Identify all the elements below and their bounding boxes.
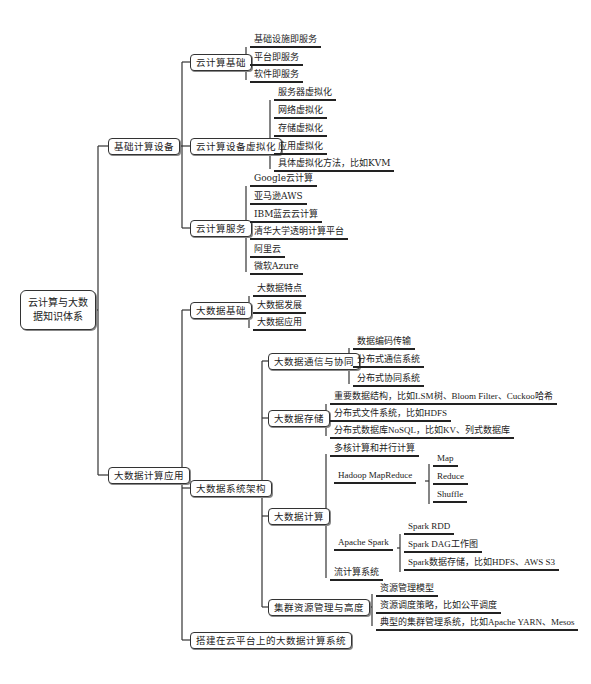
root-label: 云计算与大数据知识体系	[28, 297, 88, 322]
leaf-reduce[interactable]: Reduce	[433, 470, 468, 485]
node-big-data-basics[interactable]: 大数据基础	[190, 302, 252, 319]
node-label: 云计算设备虚拟化	[196, 141, 276, 152]
leaf-map[interactable]: Map	[433, 452, 458, 467]
mind-map: 云计算与大数据知识体系 基础计算设备 大数据计算应用 云计算基础 基础设施即服务…	[0, 0, 591, 684]
leaf-nosql[interactable]: 分布式数据库NoSQL，比如KV、列式数据库	[330, 424, 514, 439]
leaf-spark-storage[interactable]: Spark数据存储，比如HDFS、AWS S3	[404, 556, 559, 571]
node-big-data-computing-apps[interactable]: 大数据计算应用	[108, 467, 190, 484]
node-label: 云计算服务	[196, 223, 246, 234]
node-apache-spark[interactable]: Apache Spark	[334, 536, 393, 551]
node-label: 搭建在云平台上的大数据计算系统	[196, 635, 346, 646]
node-big-data-architecture[interactable]: 大数据系统架构	[190, 480, 272, 497]
leaf-distributed-coordination[interactable]: 分布式协同系统	[353, 372, 424, 387]
node-label: 大数据存储	[274, 413, 324, 424]
leaf-ibm-bluecloud[interactable]: IBM蓝云云计算	[250, 208, 322, 223]
node-cloud-services[interactable]: 云计算服务	[190, 220, 252, 237]
node-label: 大数据基础	[196, 305, 246, 316]
leaf-azure[interactable]: 微软Azure	[250, 260, 303, 275]
leaf-google-cloud[interactable]: Google云计算	[250, 172, 317, 187]
node-label: 集群资源管理与高度	[274, 602, 364, 613]
leaf-app-virtualization[interactable]: 应用虚拟化	[274, 140, 327, 155]
node-label: 云计算基础	[196, 57, 246, 68]
node-basic-computing-devices[interactable]: 基础计算设备	[108, 138, 180, 155]
leaf-paas[interactable]: 平台即服务	[250, 51, 303, 66]
leaf-kvm[interactable]: 具体虚拟化方法，比如KVM	[274, 157, 394, 172]
node-label: 大数据计算	[274, 511, 324, 522]
leaf-storage-virtualization[interactable]: 存储虚拟化	[274, 122, 327, 137]
leaf-big-data-development[interactable]: 大数据发展	[253, 299, 306, 314]
node-label: 基础计算设备	[114, 141, 174, 152]
leaf-big-data-features[interactable]: 大数据特点	[253, 282, 306, 297]
node-cluster-resource-management[interactable]: 集群资源管理与高度	[268, 599, 370, 616]
node-label: 大数据系统架构	[196, 483, 266, 494]
leaf-distributed-communication[interactable]: 分布式通信系统	[353, 353, 424, 368]
node-hadoop-mapreduce[interactable]: Hadoop MapReduce	[334, 469, 416, 484]
node-cloud-basics[interactable]: 云计算基础	[190, 54, 252, 71]
leaf-spark-rdd[interactable]: Spark RDD	[404, 520, 454, 535]
node-big-data-computing[interactable]: 大数据计算	[268, 508, 330, 525]
leaf-iaas[interactable]: 基础设施即服务	[250, 33, 321, 48]
leaf-stream-computing[interactable]: 流计算系统	[330, 566, 383, 581]
leaf-multicore-parallel[interactable]: 多核计算和并行计算	[330, 442, 419, 457]
leaf-network-virtualization[interactable]: 网络虚拟化	[274, 104, 327, 119]
node-cloud-big-data-system[interactable]: 搭建在云平台上的大数据计算系统	[190, 632, 352, 649]
leaf-scheduling-policy[interactable]: 资源调度策略，比如公平调度	[376, 599, 501, 614]
leaf-server-virtualization[interactable]: 服务器虚拟化	[274, 86, 336, 101]
node-communication-coordination[interactable]: 大数据通信与协同	[268, 353, 360, 370]
leaf-saas[interactable]: 软件即服务	[250, 68, 303, 83]
leaf-hdfs[interactable]: 分布式文件系统，比如HDFS	[330, 407, 451, 422]
root-node[interactable]: 云计算与大数据知识体系	[20, 290, 96, 330]
node-cloud-virtualization[interactable]: 云计算设备虚拟化	[190, 138, 282, 155]
leaf-spark-dag[interactable]: Spark DAG工作图	[404, 538, 482, 553]
leaf-aws[interactable]: 亚马逊AWS	[250, 190, 307, 205]
connector-lines	[0, 0, 591, 684]
leaf-resource-model[interactable]: 资源管理模型	[376, 582, 438, 597]
node-big-data-storage[interactable]: 大数据存储	[268, 410, 330, 427]
leaf-data-structures[interactable]: 重要数据结构，比如LSM树、Bloom Filter、Cuckoo哈希	[330, 390, 557, 405]
leaf-cluster-systems[interactable]: 典型的集群管理系统，比如Apache YARN、Mesos	[376, 616, 578, 631]
leaf-tsinghua-transparent[interactable]: 清华大学透明计算平台	[250, 225, 348, 240]
node-label: 大数据通信与协同	[274, 356, 354, 367]
node-label: 大数据计算应用	[114, 470, 184, 481]
leaf-shuffle[interactable]: Shuffle	[433, 488, 467, 503]
leaf-big-data-applications[interactable]: 大数据应用	[253, 316, 306, 331]
leaf-aliyun[interactable]: 阿里云	[250, 243, 285, 258]
leaf-data-encoding[interactable]: 数据编码传输	[353, 335, 415, 350]
